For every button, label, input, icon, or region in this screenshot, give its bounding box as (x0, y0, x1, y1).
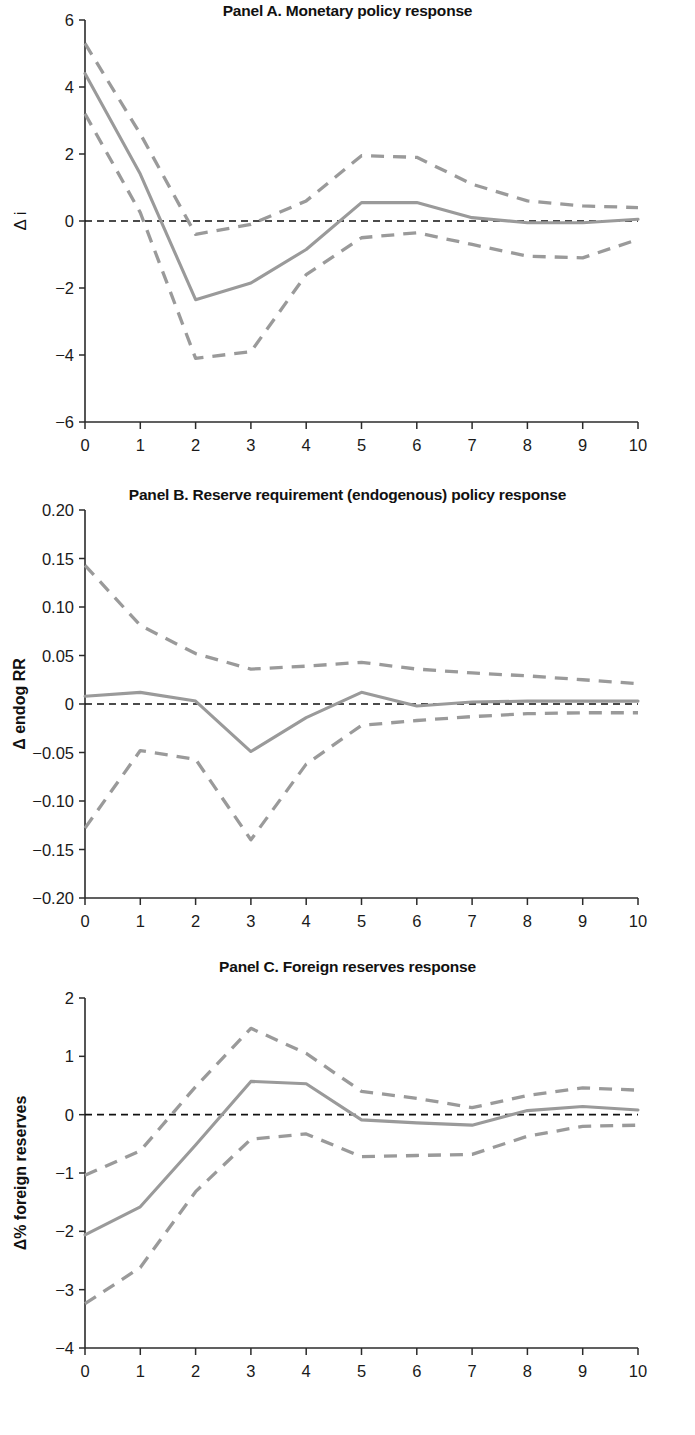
x-tick-label: 9 (578, 436, 587, 454)
impulse-response-figure: Panel A. Monetary policy response Δ i 64… (0, 0, 695, 1435)
x-tick-label: 4 (302, 912, 311, 930)
y-tick-label: 1 (65, 1047, 74, 1065)
x-tick-label: 7 (468, 436, 477, 454)
x-tick-label: 0 (80, 1362, 89, 1380)
x-tick-label: 2 (191, 1362, 200, 1380)
series-confidence-band (85, 43, 638, 234)
y-tick-label: 6 (65, 11, 74, 29)
series-confidence-band (85, 1028, 638, 1175)
x-tick-label: 2 (191, 912, 200, 930)
x-tick-label: 5 (357, 436, 366, 454)
panel-a-plot: 6420−2−4−6012345678910 (0, 0, 695, 480)
y-tick-label: −4 (55, 1339, 74, 1357)
x-tick-label: 5 (357, 1362, 366, 1380)
series-confidence-band (85, 713, 638, 840)
panel-a: Panel A. Monetary policy response Δ i 64… (0, 0, 695, 480)
x-tick-label: 8 (523, 436, 532, 454)
y-tick-label: 2 (65, 989, 74, 1007)
x-tick-label: 0 (80, 436, 89, 454)
y-tick-label: −1 (55, 1164, 74, 1182)
y-tick-label: 0 (65, 212, 74, 230)
series-confidence-band (85, 1125, 638, 1304)
series-point-estimate (85, 692, 638, 751)
y-tick-label: 0 (65, 1106, 74, 1124)
x-tick-label: 10 (629, 436, 647, 454)
x-tick-label: 3 (246, 912, 255, 930)
y-tick-label: 0.10 (42, 598, 74, 616)
y-tick-label: −0.10 (32, 792, 74, 810)
x-tick-label: 4 (302, 436, 311, 454)
y-tick-label: −2 (55, 279, 74, 297)
y-tick-label: 0.05 (42, 647, 74, 665)
x-tick-label: 3 (246, 436, 255, 454)
x-tick-label: 4 (302, 1362, 311, 1380)
x-tick-label: 1 (136, 1362, 145, 1380)
y-tick-label: −4 (55, 346, 74, 364)
y-tick-label: 0.20 (42, 501, 74, 519)
x-tick-label: 1 (136, 912, 145, 930)
x-tick-label: 9 (578, 1362, 587, 1380)
x-tick-label: 5 (357, 912, 366, 930)
x-tick-label: 10 (629, 912, 647, 930)
x-tick-label: 2 (191, 436, 200, 454)
y-tick-label: −2 (55, 1222, 74, 1240)
x-tick-label: 0 (80, 912, 89, 930)
y-tick-label: −0.15 (32, 841, 74, 859)
x-tick-label: 7 (468, 912, 477, 930)
panel-c-plot: 210−1−2−3−4012345678910 (0, 950, 695, 1435)
x-tick-label: 6 (412, 436, 421, 454)
y-tick-label: −3 (55, 1281, 74, 1299)
x-tick-label: 3 (246, 1362, 255, 1380)
y-tick-label: 0 (65, 695, 74, 713)
x-tick-label: 6 (412, 912, 421, 930)
x-tick-label: 6 (412, 1362, 421, 1380)
x-tick-label: 8 (523, 1362, 532, 1380)
y-tick-label: 0.15 (42, 550, 74, 568)
panel-b-plot: 0.200.150.100.050−0.05−0.10−0.15−0.20012… (0, 480, 695, 950)
series-point-estimate (85, 1081, 638, 1234)
x-tick-label: 8 (523, 912, 532, 930)
y-tick-label: 4 (65, 78, 74, 96)
y-tick-label: −0.05 (32, 744, 74, 762)
x-tick-label: 1 (136, 436, 145, 454)
y-tick-label: 2 (65, 145, 74, 163)
x-tick-label: 9 (578, 912, 587, 930)
panel-b: Panel B. Reserve requirement (endogenous… (0, 480, 695, 950)
y-tick-label: −6 (55, 413, 74, 431)
y-tick-label: −0.20 (32, 889, 74, 907)
x-tick-label: 7 (468, 1362, 477, 1380)
series-confidence-band (85, 565, 638, 683)
x-tick-label: 10 (629, 1362, 647, 1380)
panel-c: Panel C. Foreign reserves response Δ% fo… (0, 950, 695, 1435)
